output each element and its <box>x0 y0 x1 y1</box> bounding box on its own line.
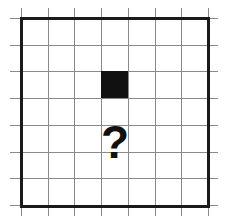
grid-border <box>20 17 210 208</box>
grid-puzzle: ? <box>0 0 227 224</box>
question-mark: ? <box>101 119 128 165</box>
filled-cell <box>101 71 128 98</box>
